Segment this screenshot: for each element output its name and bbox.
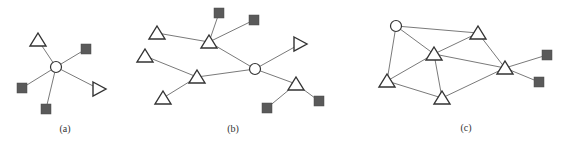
edge-b: [197, 69, 255, 77]
circle-node: [51, 62, 62, 73]
edge-c: [387, 26, 396, 81]
square-node: [17, 83, 27, 93]
square-node: [542, 50, 552, 60]
edge-c: [434, 54, 505, 68]
triangle-node: [288, 77, 304, 90]
triangle-node: [426, 47, 442, 60]
edge-b: [255, 44, 300, 69]
triangle-node: [434, 91, 450, 104]
square-node: [249, 15, 259, 25]
edges-layer: [22, 13, 547, 109]
triangle-node: [155, 91, 171, 104]
square-node: [262, 103, 272, 113]
circle-node: [391, 21, 402, 32]
triangle-right-node: [93, 82, 106, 96]
triangle-node: [497, 61, 513, 74]
triangle-node: [137, 49, 153, 62]
captions-layer: (a) (b) (c): [59, 122, 471, 135]
triangle-node: [379, 74, 395, 87]
square-node: [41, 104, 51, 114]
network-figure: (a) (b) (c): [0, 0, 570, 146]
square-node: [534, 77, 544, 87]
edge-b: [255, 69, 296, 84]
triangle-right-node: [294, 37, 307, 51]
edge-c: [396, 26, 478, 33]
edge-a: [46, 67, 56, 109]
triangle-node: [149, 26, 165, 39]
square-node: [81, 44, 91, 54]
circle-node: [250, 64, 261, 75]
edge-b: [145, 56, 197, 77]
caption-a: (a): [59, 123, 70, 135]
edge-c: [387, 81, 442, 98]
square-node: [214, 8, 224, 18]
caption-b: (b): [227, 123, 239, 135]
edge-c: [396, 26, 434, 54]
square-node: [314, 96, 324, 106]
caption-c: (c): [460, 122, 471, 134]
edge-c: [442, 68, 505, 98]
edge-c: [505, 55, 547, 68]
triangle-node: [30, 33, 46, 46]
